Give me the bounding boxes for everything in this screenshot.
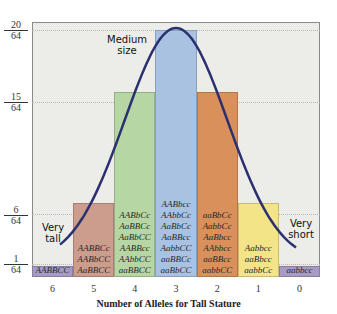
annotation-line: short (288, 229, 314, 240)
annotation-line: tall (45, 233, 61, 244)
annotation-line: Medium (107, 34, 147, 45)
annotation-medium-size: Medium size (100, 34, 154, 56)
allele-histogram: 20 64 15 64 6 64 1 64 AABBCCAABBCcAABbCC… (0, 0, 337, 314)
x-axis-label: Number of Alleles for Tall Stature (0, 298, 337, 309)
annotation-line: Very (290, 218, 312, 229)
annotation-very-short: Very short (283, 218, 319, 240)
normal-curve (0, 0, 337, 314)
annotation-line: size (117, 45, 136, 56)
annotation-line: Very (42, 222, 64, 233)
annotation-very-tall: Very tall (36, 222, 70, 244)
